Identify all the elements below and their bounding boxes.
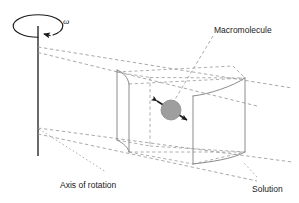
guide-bottom-back xyxy=(38,128,292,162)
cell-hidden-edges-group xyxy=(117,66,245,164)
diagram-canvas: Macromolecule Axis of rotation Solution … xyxy=(0,0,299,203)
far-wall-top-arc xyxy=(193,78,245,96)
cell-edge-bottom-back xyxy=(150,146,245,152)
cell-far-wall-group xyxy=(193,78,245,164)
solution-label: Solution xyxy=(252,184,283,194)
angular-velocity-label: ω xyxy=(63,16,69,26)
cell-edge-bottom-near-foot xyxy=(129,152,193,164)
rotation-direction-arrow-icon xyxy=(44,34,51,36)
macromolecule-particle xyxy=(161,100,181,120)
macromolecule-label: Macromolecule xyxy=(214,25,272,35)
near-wall-bottom-arc xyxy=(117,140,129,152)
axis-of-rotation-label: Axis of rotation xyxy=(60,180,116,190)
guide-bottom-front xyxy=(38,134,257,181)
cell-edge-top-far-left xyxy=(129,78,245,84)
cell-edge-top-right-front xyxy=(233,66,245,78)
leader-line-solution xyxy=(244,163,257,177)
leader-line-macromolecule xyxy=(174,36,213,101)
macromolecule-group xyxy=(157,100,187,120)
cell-edge-bottom-far-front xyxy=(193,152,245,164)
cell-edge-top-front xyxy=(117,66,233,72)
leader-line-axis-of-rotation xyxy=(39,129,106,172)
ultracentrifuge-cell-diagram: Macromolecule Axis of rotation Solution … xyxy=(0,0,299,203)
